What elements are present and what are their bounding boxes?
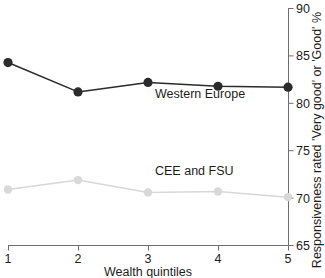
data-point [283,83,292,92]
series-cee-fsu-markers [4,176,292,201]
x-tick-label-3: 3 [145,252,152,266]
data-point [74,176,82,184]
data-point [73,87,82,96]
y-tick-label-85: 85 [296,49,310,63]
x-tick-label-4: 4 [215,252,222,266]
chart-container: 90 85 80 75 70 65 1 2 3 4 5 Wealth quint… [0,0,325,278]
data-point [284,193,292,201]
data-point [214,187,222,195]
data-point [3,58,12,67]
x-tick-label-2: 2 [75,252,82,266]
y-tick-label-80: 80 [296,97,310,111]
y-axis-ticks [289,9,294,246]
y-tick-label-70: 70 [296,192,310,206]
y-tick-label-75: 75 [296,144,310,158]
data-point [144,188,152,196]
series-western-europe-markers [3,58,292,97]
series-western-europe-line [8,63,288,92]
y-tick-label-90: 90 [296,2,310,16]
series-cee-fsu [4,176,292,201]
data-point [4,185,12,193]
series-label-cee-fsu: CEE and FSU [155,164,234,178]
data-point [143,78,152,87]
y-axis-title: Responsiveness rated 'Very good' or 'Goo… [310,12,324,268]
x-axis-ticks [9,246,289,251]
x-tick-label-1: 1 [5,252,12,266]
line-chart: 90 85 80 75 70 65 1 2 3 4 5 Wealth quint… [0,0,325,278]
x-tick-label-5: 5 [285,252,292,266]
y-tick-label-65: 65 [296,239,310,253]
x-axis-title: Wealth quintiles [104,265,192,278]
series-label-western-europe: Western Europe [155,87,245,101]
series-western-europe [3,58,292,97]
